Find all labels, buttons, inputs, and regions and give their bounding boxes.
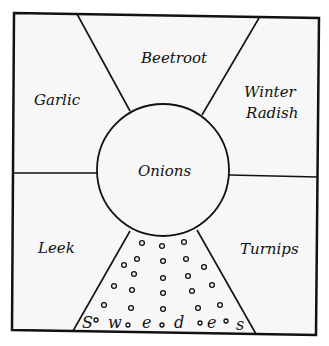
sow-letter-e2: e (207, 313, 216, 332)
sow-letter-w: w (108, 313, 122, 332)
label-beetroot: Beetroot (140, 49, 208, 67)
sow-letter-e: e (142, 313, 151, 332)
label-turnips: Turnips (240, 240, 299, 258)
label-onions: Onions (138, 162, 191, 180)
label-winter: Winter (244, 83, 297, 101)
label-leek: Leek (37, 239, 75, 257)
sow-letter-d: d (174, 313, 184, 332)
garden-diagram: Beetroot Garlic Winter Radish Onions Lee… (0, 0, 329, 346)
sow-letter-s2: s (236, 315, 244, 334)
label-garlic: Garlic (34, 91, 81, 109)
sow-letter-s: S (82, 313, 93, 332)
label-radish: Radish (245, 104, 298, 122)
